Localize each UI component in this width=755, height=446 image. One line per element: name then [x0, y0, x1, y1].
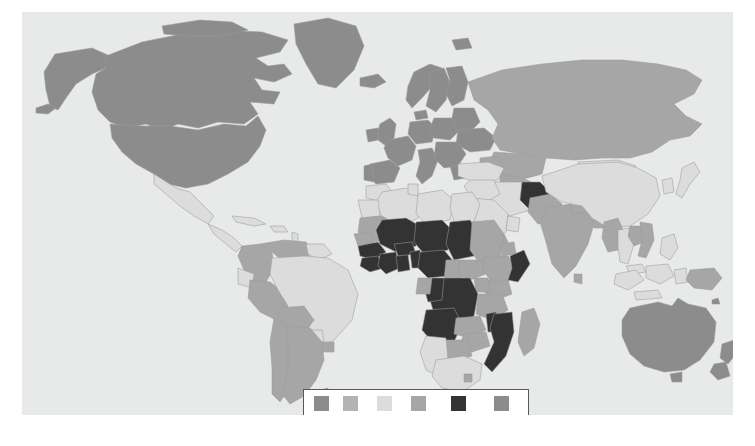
region-philippines [660, 234, 678, 260]
region-eritrea-djibouti [500, 242, 516, 256]
region-new-zealand-south [710, 362, 730, 380]
map-panel: 2–9 10–19 20–49 50–99 100–200 No data [22, 12, 733, 415]
region-pacific-islands [712, 298, 720, 304]
legend-swatch-icon-0 [314, 396, 329, 411]
legend-swatch-icon-1 [343, 396, 358, 411]
map-legend: 2–9 10–19 20–49 50–99 100–200 No data [303, 389, 529, 415]
region-iceland [360, 74, 386, 88]
legend-item-2[interactable]: 20–49 [371, 396, 398, 415]
region-japan [676, 162, 700, 198]
region-tasmania [670, 372, 682, 382]
region-new-zealand [720, 340, 733, 364]
region-india [540, 204, 594, 278]
region-ireland [366, 128, 378, 142]
legend-item-1[interactable]: 10–19 [337, 396, 364, 415]
region-sulawesi [674, 268, 688, 284]
legend-item-0[interactable]: 2–9 [313, 396, 329, 415]
legend-swatch-icon-3 [411, 396, 426, 411]
legend-swatch-icon-4 [451, 396, 466, 411]
region-finland [446, 66, 468, 106]
world-map-svg [22, 12, 733, 415]
legend-item-3[interactable]: 50–99 [405, 396, 432, 415]
region-portugal [364, 164, 374, 182]
region-cuba [232, 216, 266, 226]
world-map-figure: 2–9 10–19 20–49 50–99 100–200 No data [0, 0, 755, 446]
region-madagascar [518, 308, 540, 356]
region-south-africa [432, 356, 482, 392]
region-korea [662, 178, 674, 194]
region-tunisia [408, 184, 418, 196]
legend-item-5[interactable]: No data [485, 396, 519, 415]
region-russia [468, 60, 702, 160]
region-libya [416, 190, 454, 224]
region-svalbard [452, 38, 472, 50]
region-central-america [208, 224, 242, 252]
region-oman [506, 216, 520, 232]
region-canada [92, 30, 292, 130]
region-greenland [294, 18, 364, 88]
region-niger [414, 220, 452, 254]
legend-item-4[interactable]: 100–200 [440, 396, 478, 415]
region-papua-new-guinea [686, 268, 722, 290]
region-sri-lanka [574, 274, 582, 284]
region-ghana [396, 254, 410, 272]
region-hispaniola [270, 226, 288, 232]
region-united-states [110, 116, 266, 188]
region-lesotho [464, 374, 472, 382]
region-borneo [646, 264, 674, 284]
legend-swatch-icon-5 [494, 396, 509, 411]
region-denmark [414, 110, 428, 120]
legend-swatch-icon-2 [377, 396, 392, 411]
region-indonesia-java [634, 290, 662, 300]
region-gabon [416, 278, 432, 294]
region-uruguay [322, 342, 334, 352]
region-uganda [474, 278, 490, 292]
region-australia [622, 298, 716, 372]
region-western-sahara [358, 200, 380, 218]
